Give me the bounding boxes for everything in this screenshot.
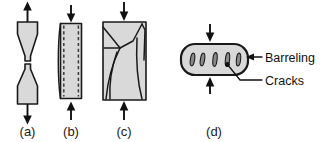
figure-background bbox=[0, 0, 322, 142]
cracks-leader-dot bbox=[225, 62, 230, 67]
panel-b-caption: (b) bbox=[63, 124, 79, 139]
barreling-label: Barreling bbox=[265, 51, 315, 65]
figure-canvas: (a) (b) bbox=[0, 0, 322, 142]
panel-c-caption: (c) bbox=[116, 124, 131, 139]
failure-modes-figure: (a) (b) bbox=[0, 0, 322, 142]
panel-a-caption: (a) bbox=[20, 124, 36, 139]
panel-d-caption: (d) bbox=[206, 124, 222, 139]
cracks-label: Cracks bbox=[265, 74, 304, 88]
